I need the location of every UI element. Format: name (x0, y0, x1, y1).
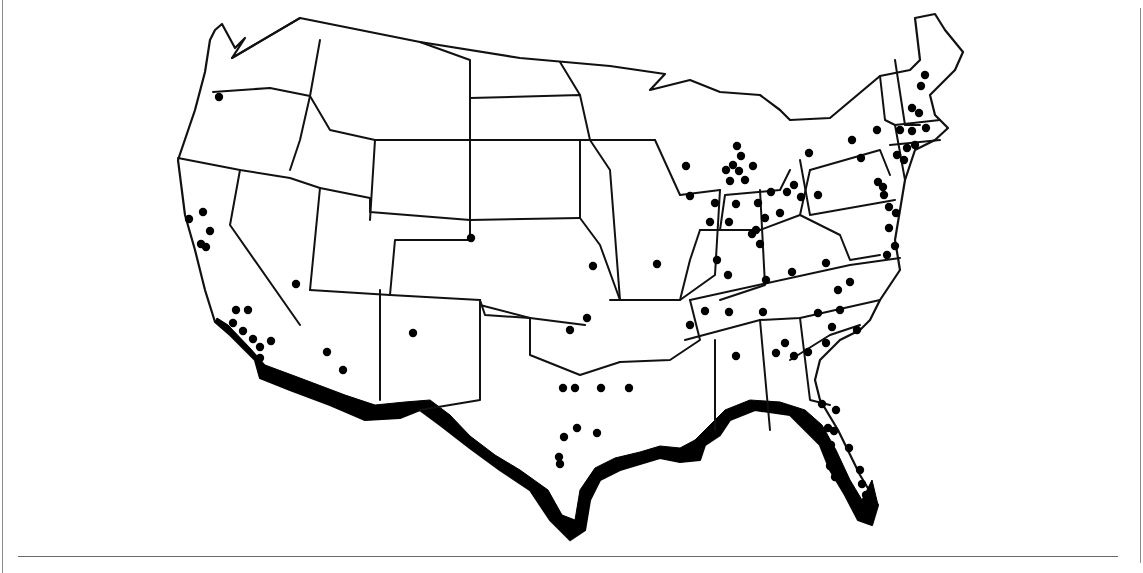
map-dot-marker (566, 326, 574, 334)
map-dot-marker (749, 162, 757, 170)
map-dot-marker (323, 348, 331, 356)
map-dot-marker (922, 124, 930, 132)
map-dot-marker (725, 218, 733, 226)
map-dot-marker (857, 154, 865, 162)
map-dot-marker (232, 306, 240, 314)
map-dot-marker (267, 337, 275, 345)
map-dot-marker (841, 476, 849, 484)
map-dot-marker (559, 384, 567, 392)
map-dot-marker (885, 203, 893, 211)
map-dot-marker (818, 400, 826, 408)
map-dot-marker (817, 428, 825, 436)
map-dot-marker (199, 208, 207, 216)
map-dot-marker (686, 192, 694, 200)
map-dot-marker (814, 191, 822, 199)
map-dot-marker (725, 308, 733, 316)
map-dot-marker (593, 429, 601, 437)
map-dot-marker (711, 199, 719, 207)
map-dot-marker (686, 321, 694, 329)
map-dot-marker (713, 256, 721, 264)
map-dot-marker (845, 444, 853, 452)
map-dot-marker (826, 462, 834, 470)
map-dot-marker (903, 144, 911, 152)
map-dot-marker (831, 473, 839, 481)
map-dot-marker (848, 136, 856, 144)
map-dot-marker (772, 349, 780, 357)
map-dot-marker (822, 339, 830, 347)
map-dot-marker (911, 141, 919, 149)
map-dot-marker (754, 199, 762, 207)
map-dot-marker (735, 167, 743, 175)
map-dot-marker (256, 343, 264, 351)
map-dot-marker (862, 491, 870, 499)
map-dot-marker (846, 278, 854, 286)
map-dot-marker (682, 162, 690, 170)
map-dot-marker (759, 308, 767, 316)
map-dot-marker (891, 242, 899, 250)
map-dot-marker (256, 354, 264, 362)
map-dot-marker (873, 126, 881, 134)
map-dot-marker (741, 176, 749, 184)
us-state-map (0, 0, 1143, 573)
map-dot-marker (597, 384, 605, 392)
map-dot-marker (781, 339, 789, 347)
map-dot-marker (880, 191, 888, 199)
map-dot-marker (733, 142, 741, 150)
map-dot-marker (908, 104, 916, 112)
map-dot-marker (729, 161, 737, 169)
map-dot-marker (776, 209, 784, 217)
map-dot-marker (853, 326, 861, 334)
map-dot-marker (790, 181, 798, 189)
map-dot-marker (339, 366, 347, 374)
map-dot-marker (722, 166, 730, 174)
map-dot-marker (206, 227, 214, 235)
map-dot-marker (701, 307, 709, 315)
map-dot-marker (409, 329, 417, 337)
map-dot-marker (726, 177, 734, 185)
map-dot-marker (804, 348, 812, 356)
map-dot-marker (706, 218, 714, 226)
map-dot-marker (249, 335, 257, 343)
map-dot-marker (239, 327, 247, 335)
map-dot-marker (724, 271, 732, 279)
map-dot-marker (215, 93, 223, 101)
map-dot-marker (900, 156, 908, 164)
map-dot-marker (756, 240, 764, 248)
map-dot-marker (896, 126, 904, 134)
map-dot-marker (797, 193, 805, 201)
map-dot-marker (836, 306, 844, 314)
map-dot-marker (917, 82, 925, 90)
map-dot-marker (834, 286, 842, 294)
map-dot-marker (556, 460, 564, 468)
map-dot-marker (467, 234, 475, 242)
map-dot-marker (892, 209, 900, 217)
map-dot-marker (625, 384, 633, 392)
map-dot-marker (748, 230, 756, 238)
map-dot-marker (292, 280, 300, 288)
map-dot-marker (827, 441, 835, 449)
map-dot-marker (761, 214, 769, 222)
map-dot-marker (653, 260, 661, 268)
map-dot-marker (874, 178, 882, 186)
map-dot-marker (885, 224, 893, 232)
map-dot-marker (790, 352, 798, 360)
map-dot-marker (788, 268, 796, 276)
map-dot-marker (814, 309, 822, 317)
map-dot-marker (828, 323, 836, 331)
map-dot-marker (573, 424, 581, 432)
map-dot-marker (921, 71, 929, 79)
map-dot-marker (783, 188, 791, 196)
map-dot-marker (229, 319, 237, 327)
map-dot-marker (762, 276, 770, 284)
map-dot-marker (858, 480, 866, 488)
map-dot-marker (832, 406, 840, 414)
map-dot-marker (883, 251, 891, 259)
map-dot-marker (571, 384, 579, 392)
map-dot-marker (805, 149, 813, 157)
map-dot-marker (915, 109, 923, 117)
map-dot-marker (202, 243, 210, 251)
map-dot-marker (830, 427, 838, 435)
map-dot-marker (737, 152, 745, 160)
map-dot-marker (589, 262, 597, 270)
map-dot-marker (822, 259, 830, 267)
